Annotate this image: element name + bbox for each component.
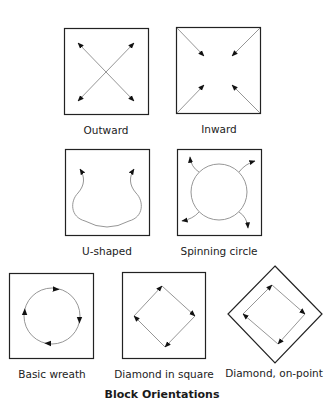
inward-arrows-icon [176,27,262,115]
label-outward: Outward [84,124,129,136]
label-u-shaped: U-shaped [82,245,132,257]
diamond-on-point-block [227,265,324,365]
u-shaped-arrows-icon [65,149,150,237]
label-diamond-on-point: Diamond, on-point [225,367,323,379]
spinning-circle-block [177,149,262,237]
diamond-in-square-block [122,272,206,360]
outward-block [64,28,149,116]
u-shaped-block [65,149,150,237]
outward-arrows-icon [64,28,149,116]
basic-wreath-block [9,273,95,360]
label-basic-wreath: Basic wreath [18,368,85,380]
label-diamond-in-square: Diamond in square [114,368,213,380]
spinning-circle-arrows-icon [177,149,262,237]
basic-wreath-arrows-icon [9,273,95,360]
diamond-in-square-arrows-icon [122,272,206,360]
label-inward: Inward [201,123,237,135]
diamond-on-point-arrows-icon [227,265,324,365]
label-spinning-circle: Spinning circle [180,245,257,257]
inward-block [176,27,262,115]
figure-title: Block Orientations [105,388,220,401]
